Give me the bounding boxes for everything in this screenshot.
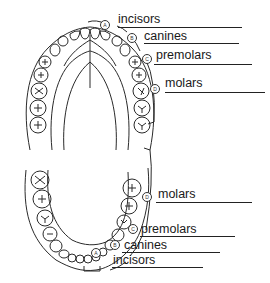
marker-b-upper: B [127,33,137,43]
answer-line-incisors-upper [118,27,242,28]
answer-line-premolars-upper [154,64,252,65]
label-incisors-upper: incisors [118,12,160,26]
marker-a-lower: A [91,248,101,258]
marker-b-lower: B [110,240,120,250]
label-premolars-lower: premolars [141,222,197,236]
label-premolars-upper: premolars [156,48,212,62]
marker-c-lower: C [128,224,138,234]
marker-d-lower: D [142,192,152,202]
answer-line-incisors-lower [112,267,203,268]
marker-d-upper: D [150,84,160,94]
dental-diagram: A incisors B canines C premolars D molar… [0,0,270,283]
marker-c-upper: C [142,54,152,64]
answer-line-molars-upper [165,92,265,93]
answer-line-canines-upper [144,43,239,44]
marker-a-upper: A [100,20,110,30]
label-incisors-lower: incisors [113,253,155,267]
label-canines-upper: canines [144,29,187,43]
label-canines-lower: canines [124,238,167,252]
answer-line-premolars-lower [140,236,235,237]
label-molars-upper: molars [165,76,203,90]
label-molars-lower: molars [158,187,196,201]
answer-line-molars-lower [156,202,252,203]
